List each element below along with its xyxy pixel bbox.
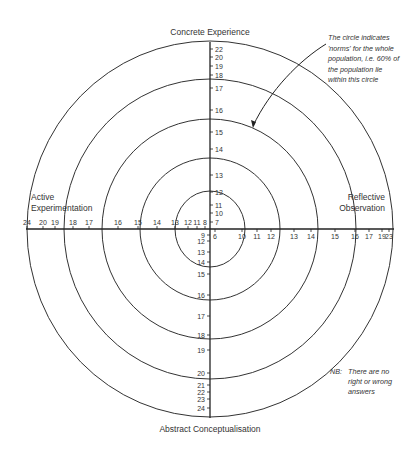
tick-label-right: 15 xyxy=(331,233,339,240)
tick-label-bottom: 13 xyxy=(197,249,205,256)
tick-label-top: 22 xyxy=(215,46,223,53)
tick-label-bottom: 22 xyxy=(197,389,205,396)
tick-label-top: 19 xyxy=(215,63,223,70)
note-line: There are no xyxy=(348,367,389,376)
tick-label-left: 24 xyxy=(23,219,31,226)
tick-label-bottom: 23 xyxy=(197,396,205,403)
tick-label-right: 17 xyxy=(365,233,373,240)
tick-label-top: 7 xyxy=(215,219,219,226)
tick-label-bottom: 12 xyxy=(197,238,205,245)
annotation-line: 'norms' for the whole xyxy=(328,44,394,53)
annotation-line: The circle indicates xyxy=(328,33,390,42)
learning-styles-target-diagram: 2220191817161514131211107912131415161718… xyxy=(0,0,412,452)
axis-label-left-line1: Active xyxy=(31,192,54,202)
tick-label-bottom: 18 xyxy=(197,332,205,339)
tick-label-right: 14 xyxy=(307,233,315,240)
tick-label-top: 13 xyxy=(215,172,223,179)
tick-label-top: 16 xyxy=(215,107,223,114)
tick-label-bottom: 17 xyxy=(197,313,205,320)
tick-label-bottom: 14 xyxy=(197,259,205,266)
tick-label-bottom: 24 xyxy=(197,405,205,412)
annotation-line: population, i.e. 60% of xyxy=(327,54,400,63)
tick-label-right: 6 xyxy=(213,233,217,240)
tick-label-bottom: 20 xyxy=(197,370,205,377)
axis-label-left-line2: Experimentation xyxy=(31,203,93,213)
tick-label-left: 12 xyxy=(184,219,192,226)
note-prefix: NB: xyxy=(330,367,342,376)
tick-label-left: 16 xyxy=(114,219,122,226)
tick-label-top: 15 xyxy=(215,129,223,136)
tick-label-left: 15 xyxy=(134,219,142,226)
note-line: answers xyxy=(348,387,375,396)
tick-label-left: 13 xyxy=(171,219,179,226)
tick-label-top: 20 xyxy=(215,54,223,61)
note-line: right or wrong xyxy=(348,377,392,386)
annotation-arrow xyxy=(251,44,326,128)
nb-note: There are noright or wronganswers xyxy=(348,367,392,396)
tick-label-bottom: 16 xyxy=(197,292,205,299)
tick-label-left: 14 xyxy=(153,219,161,226)
tick-label-top: 17 xyxy=(215,85,223,92)
tick-label-right: 23 xyxy=(385,233,393,240)
tick-label-right: 16 xyxy=(351,233,359,240)
tick-label-right: 12 xyxy=(267,233,275,240)
annotation-line: the population lie xyxy=(328,65,382,74)
tick-label-right: 10 xyxy=(238,233,246,240)
tick-label-left: 18 xyxy=(69,219,77,226)
tick-label-bottom: 19 xyxy=(197,347,205,354)
axis-label-bottom: Abstract Conceptualisation xyxy=(159,424,260,434)
tick-label-right: 13 xyxy=(290,233,298,240)
tick-label-top: 14 xyxy=(215,146,223,153)
tick-label-left: 8 xyxy=(203,219,207,226)
axis-label-right-line1: Reflective xyxy=(348,192,386,202)
tick-label-bottom: 15 xyxy=(197,271,205,278)
tick-label-top: 11 xyxy=(215,202,222,209)
tick-label-bottom: 21 xyxy=(197,382,205,389)
tick-label-right: 11 xyxy=(253,233,260,240)
tick-label-top: 18 xyxy=(215,72,223,79)
tick-label-left: 19 xyxy=(51,219,59,226)
axis-label-top: Concrete Experience xyxy=(170,27,250,37)
norms-annotation: The circle indicates'norms' for the whol… xyxy=(327,33,400,84)
tick-label-left: 20 xyxy=(39,219,47,226)
tick-label-left: 17 xyxy=(85,219,93,226)
tick-label-top: 10 xyxy=(215,210,223,217)
tick-label-left: 11 xyxy=(193,219,200,226)
tick-label-top: 12 xyxy=(215,189,223,196)
axis-label-right-line2: Observation xyxy=(339,203,385,213)
annotation-line: within this circle xyxy=(328,75,378,84)
